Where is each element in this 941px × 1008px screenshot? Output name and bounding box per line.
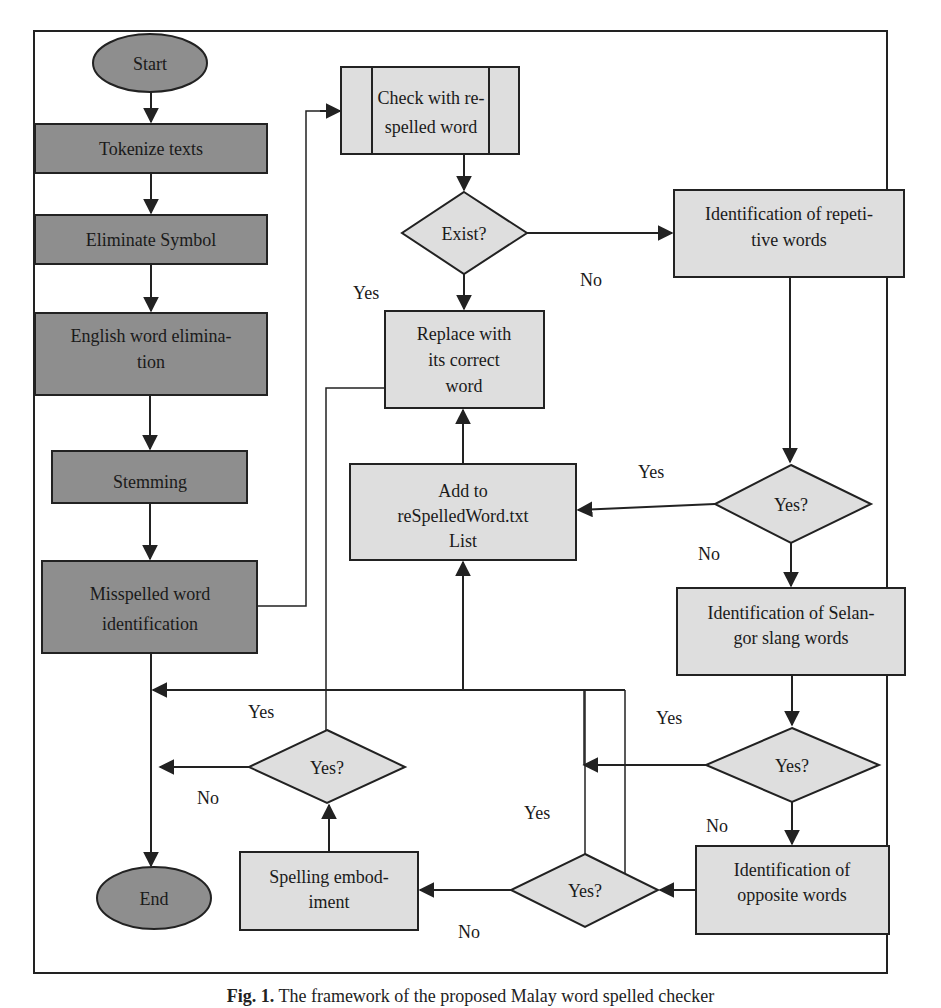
node-english-elimination-line1: English word elimina- bbox=[71, 326, 232, 346]
node-misspelled-line1: Misspelled word bbox=[90, 584, 211, 604]
node-selangor: Identification of Selan- gor slang words bbox=[677, 588, 905, 675]
node-end: End bbox=[97, 867, 211, 929]
node-add-list-line1: Add to bbox=[438, 481, 488, 501]
node-exist-label: Exist? bbox=[442, 224, 487, 244]
node-decision2-label: Yes? bbox=[775, 756, 809, 776]
node-decision3: Yes? bbox=[511, 854, 658, 927]
node-decision4: Yes? bbox=[249, 730, 405, 803]
label-d4-yes: Yes bbox=[248, 702, 274, 722]
label-d3-yes: Yes bbox=[524, 803, 550, 823]
node-decision2: Yes? bbox=[706, 728, 879, 802]
node-opposite-line2: opposite words bbox=[737, 885, 847, 905]
label-d1-no: No bbox=[698, 544, 720, 564]
node-decision1: Yes? bbox=[715, 465, 871, 543]
label-d4-no: No bbox=[197, 788, 219, 808]
label-d3-no: No bbox=[458, 922, 480, 942]
node-tokenize: Tokenize texts bbox=[35, 124, 267, 173]
node-misspelled-line2: identification bbox=[102, 614, 198, 634]
node-replace: Replace with its correct word bbox=[385, 311, 544, 408]
label-d2-yes: Yes bbox=[656, 708, 682, 728]
node-opposite: Identification of opposite words bbox=[696, 846, 889, 934]
arrow-decision1-yes-to-add bbox=[578, 504, 715, 510]
figure-caption: Fig. 1. The framework of the proposed Ma… bbox=[0, 986, 941, 1007]
node-start: Start bbox=[93, 34, 207, 92]
label-d2-no: No bbox=[706, 816, 728, 836]
node-english-elimination-line2: tion bbox=[137, 352, 165, 372]
node-check-respelled: Check with re- spelled word bbox=[341, 67, 519, 154]
node-repetitive-line2: tive words bbox=[751, 230, 827, 250]
node-english-elimination: English word elimina- tion bbox=[35, 313, 267, 395]
node-eliminate-symbol-label: Eliminate Symbol bbox=[86, 230, 217, 250]
node-selangor-line2: gor slang words bbox=[734, 628, 849, 648]
node-decision4-label: Yes? bbox=[310, 758, 344, 778]
node-replace-line2: its correct bbox=[428, 350, 499, 370]
node-spelling-line1: Spelling embod- bbox=[269, 867, 389, 887]
node-stemming: Stemming bbox=[52, 451, 247, 503]
caption-text: The framework of the proposed Malay word… bbox=[278, 986, 714, 1006]
node-tokenize-label: Tokenize texts bbox=[99, 139, 203, 159]
node-add-list: Add to reSpelledWord.txt List bbox=[350, 464, 576, 560]
node-add-list-line3: List bbox=[449, 531, 477, 551]
node-stemming-label: Stemming bbox=[113, 472, 187, 492]
node-repetitive: Identification of repeti- tive words bbox=[674, 190, 904, 277]
flowchart: Start Tokenize texts Eliminate Symbol En… bbox=[0, 0, 941, 1008]
connector-misspelled-to-check bbox=[257, 111, 340, 606]
label-exist-yes: Yes bbox=[353, 283, 379, 303]
node-check-line1: Check with re- bbox=[378, 88, 485, 108]
label-d1-yes: Yes bbox=[638, 462, 664, 482]
node-opposite-line1: Identification of bbox=[734, 860, 850, 880]
node-misspelled-identification: Misspelled word identification bbox=[42, 561, 257, 653]
node-check-line2: spelled word bbox=[385, 117, 477, 137]
node-repetitive-line1: Identification of repeti- bbox=[705, 204, 873, 224]
node-exist-decision: Exist? bbox=[402, 192, 527, 274]
node-decision3-label: Yes? bbox=[568, 881, 602, 901]
node-spelling-embodiment: Spelling embod- iment bbox=[240, 852, 418, 930]
node-end-label: End bbox=[140, 889, 169, 909]
node-eliminate-symbol: Eliminate Symbol bbox=[35, 215, 267, 264]
node-spelling-line2: iment bbox=[309, 892, 350, 912]
node-start-label: Start bbox=[133, 54, 167, 74]
caption-prefix: Fig. 1. bbox=[227, 986, 275, 1006]
node-decision1-label: Yes? bbox=[774, 495, 808, 515]
label-exist-no: No bbox=[580, 270, 602, 290]
node-replace-line1: Replace with bbox=[417, 324, 511, 344]
node-add-list-line2: reSpelledWord.txt bbox=[397, 506, 528, 526]
node-selangor-line1: Identification of Selan- bbox=[708, 603, 875, 623]
node-replace-line3: word bbox=[446, 376, 483, 396]
